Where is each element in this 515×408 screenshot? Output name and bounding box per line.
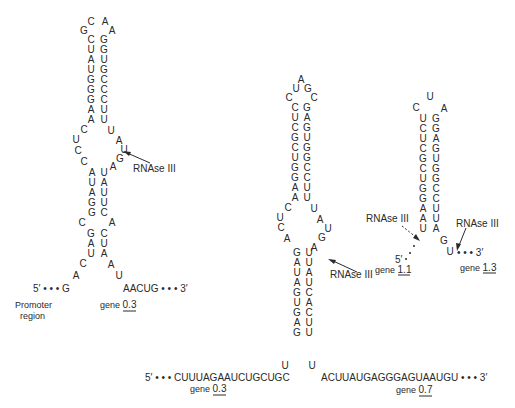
- nucleotide: U: [86, 249, 96, 259]
- gene-number: 1.1: [398, 264, 412, 275]
- rnase-iii-label: RNAse III: [456, 218, 499, 229]
- nucleotide: U: [106, 126, 116, 136]
- nucleotide: A: [107, 218, 117, 228]
- nucleotide: C: [77, 218, 87, 228]
- nucleotide: A: [431, 224, 441, 234]
- gene-number: 0.3: [123, 299, 137, 310]
- nucleotide: C: [73, 146, 83, 156]
- five-prime-end: 5′ • • • G: [33, 283, 70, 294]
- three-prime-end: AACUG • • • 3′: [123, 283, 188, 294]
- nucleotide: U: [99, 115, 109, 125]
- nucleotide: C: [78, 259, 88, 269]
- gene-number: 0.7: [419, 384, 433, 395]
- nucleotide: U: [425, 92, 435, 102]
- nucleotide: C: [99, 208, 109, 218]
- nucleotide: G: [317, 233, 327, 243]
- gene-prefix: gene: [375, 265, 395, 275]
- nucleotide: U: [114, 271, 124, 281]
- nucleotide: U: [445, 247, 455, 257]
- gene-prefix: gene: [100, 300, 120, 310]
- nucleotide: G: [87, 208, 97, 218]
- nucleotide: U: [307, 361, 317, 371]
- nucleotide: G: [439, 236, 449, 246]
- rnase-iii-processing-diagram: C A G A C G U G A U U G G C G C G C A U …: [0, 0, 515, 408]
- nucleotide: A: [108, 162, 118, 172]
- promoter-label: region: [20, 311, 45, 322]
- gene-label: gene 1.3: [460, 262, 496, 274]
- nucleotide: U: [304, 328, 314, 338]
- nucleotide: A: [106, 260, 116, 270]
- nucleotide: U: [280, 361, 290, 371]
- rnase-iii-label: RNAse III: [366, 213, 409, 224]
- gene-label: gene 0.7: [396, 384, 432, 396]
- gene-prefix: gene: [190, 384, 210, 394]
- nucleotide: A: [99, 249, 109, 259]
- nucleotide: A: [71, 271, 81, 281]
- nucleotide: C: [276, 223, 286, 233]
- nucleotide: C: [79, 157, 89, 167]
- nucleotide: C: [283, 203, 293, 213]
- nucleotide: A: [282, 234, 292, 244]
- nucleotide: U: [309, 204, 319, 214]
- gene-label: gene 1.1: [375, 264, 411, 276]
- gene-label: gene 0.3: [190, 383, 226, 395]
- nucleotide: A: [439, 104, 449, 114]
- promoter-label: Promoter: [15, 300, 52, 311]
- rnase-iii-label: RNAse III: [133, 163, 176, 174]
- nucleotide: C: [411, 103, 421, 113]
- nucleotide: G: [292, 328, 302, 338]
- gene-number: 0.3: [213, 383, 227, 394]
- gene-prefix: gene: [460, 263, 480, 273]
- gene-prefix: gene: [396, 385, 416, 395]
- three-prime-sequence: ACUUAUGAGGGAGUAAUGU • • • 3′: [321, 372, 487, 383]
- nucleotide: U: [71, 135, 81, 145]
- five-prime-sequence: 5′ • • • CUUUAGAAUCUGCUGC: [145, 372, 290, 383]
- nucleotide: U: [418, 224, 428, 234]
- nucleotide: C: [79, 125, 89, 135]
- nucleotide: U: [302, 193, 312, 203]
- rnase-iii-label: RNAse III: [330, 269, 373, 280]
- gene-number: 1.3: [483, 262, 497, 273]
- gene-label: gene 0.3: [100, 299, 136, 311]
- three-prime-end: • • • 3′: [457, 247, 483, 258]
